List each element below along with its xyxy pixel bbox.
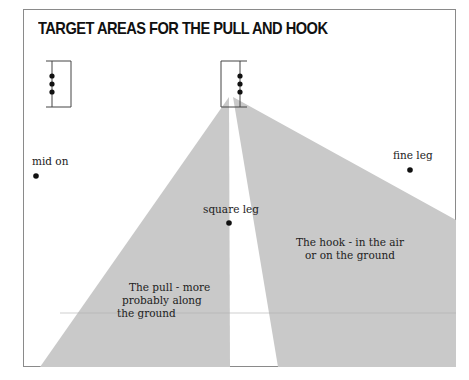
fine-leg-marker-icon (407, 167, 413, 173)
mid-on-label: mid on (32, 155, 68, 168)
pull-zone (40, 97, 230, 367)
diagram-title: TARGET AREAS FOR THE PULL AND HOOK (38, 19, 327, 39)
fine-leg-label: fine leg (393, 149, 433, 162)
pull-zone-label: The pull - more probably along the groun… (117, 281, 210, 320)
mid-on-marker-icon (33, 173, 39, 179)
square-leg-marker-icon (226, 220, 232, 226)
hook-label-line2: or on the ground (290, 249, 410, 262)
hook-zone (233, 97, 456, 367)
hook-zone-label: The hook - in the air or on the ground (290, 236, 410, 262)
bowler-end-wicket-icon (46, 61, 71, 107)
pull-label-line3: the ground (117, 307, 210, 320)
pull-label-line2: probably along (117, 294, 210, 307)
hook-label-line1: The hook - in the air (290, 236, 410, 249)
field-diagram (0, 0, 469, 380)
square-leg-label: square leg (203, 203, 259, 216)
pull-label-line1: The pull - more (117, 281, 210, 294)
